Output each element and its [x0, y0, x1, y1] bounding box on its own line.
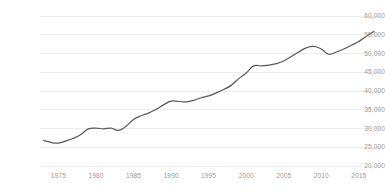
chart-plot-area	[0, 0, 385, 192]
data-series-group	[43, 31, 373, 143]
data-line-median-household-income	[43, 31, 373, 143]
gridlines	[40, 16, 381, 166]
line-chart: 20,00025,00030,00035,00040,00045,00050,0…	[0, 0, 385, 192]
